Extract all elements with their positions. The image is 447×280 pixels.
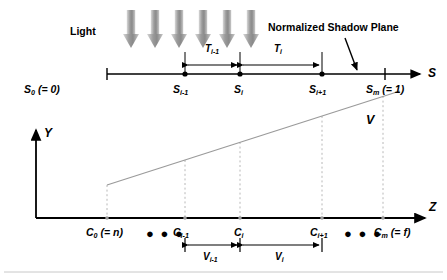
z-tick-label-c0: C0 (= n) (86, 227, 123, 238)
t-i-minus-1-label: Ti-1 (205, 44, 219, 54)
y-axis-label: Y (44, 127, 52, 139)
v-i-label: Vi (275, 252, 284, 262)
z-tick-label-ci: Ci (234, 227, 244, 238)
t-i-label: Ti (274, 44, 282, 54)
light-arrow-group (123, 10, 259, 48)
v-curve (107, 91, 400, 185)
s-tick-dot (237, 71, 242, 76)
s-tick-dot (182, 71, 187, 76)
normalized-shadow-plane-label: Normalized Shadow Plane (268, 22, 399, 33)
s-tick-label-si: Si (234, 84, 243, 95)
s-tick-dot (319, 71, 324, 76)
z-tick-label-ci-1: Ci-1 (173, 227, 189, 238)
s-tick-label-si-1: Si-1 (173, 84, 188, 95)
light-arrow (219, 10, 235, 48)
light-arrow (171, 10, 187, 48)
s-tick-label-sm: Sm (= 1) (366, 84, 404, 95)
shadow-plane-pointer (345, 38, 357, 70)
v-i-minus-1-label: Vi-1 (203, 252, 218, 262)
v-span-bracket-group (185, 238, 322, 252)
light-arrow (243, 10, 259, 48)
z-tick-label-cm: Cm (= f) (374, 227, 410, 238)
s-axis (107, 68, 420, 80)
t-span-bracket-group (185, 52, 322, 74)
shadow-plane-diagram: Light Normalized Shadow Plane Ti-1 Ti S … (0, 0, 447, 280)
drop-line-group (107, 96, 383, 218)
light-arrow (123, 10, 139, 48)
s-axis-label: S (428, 67, 436, 79)
z-tick-label-ci+1: Ci+1 (310, 227, 328, 238)
s-tick-label-s0: S0 (= 0) (24, 84, 60, 95)
z-axis-label: Z (429, 201, 436, 213)
v-curve-label: V (366, 114, 374, 127)
light-label: Light (70, 26, 96, 37)
light-arrow (147, 10, 163, 48)
s-tick-label-si+1: Si+1 (309, 84, 326, 95)
